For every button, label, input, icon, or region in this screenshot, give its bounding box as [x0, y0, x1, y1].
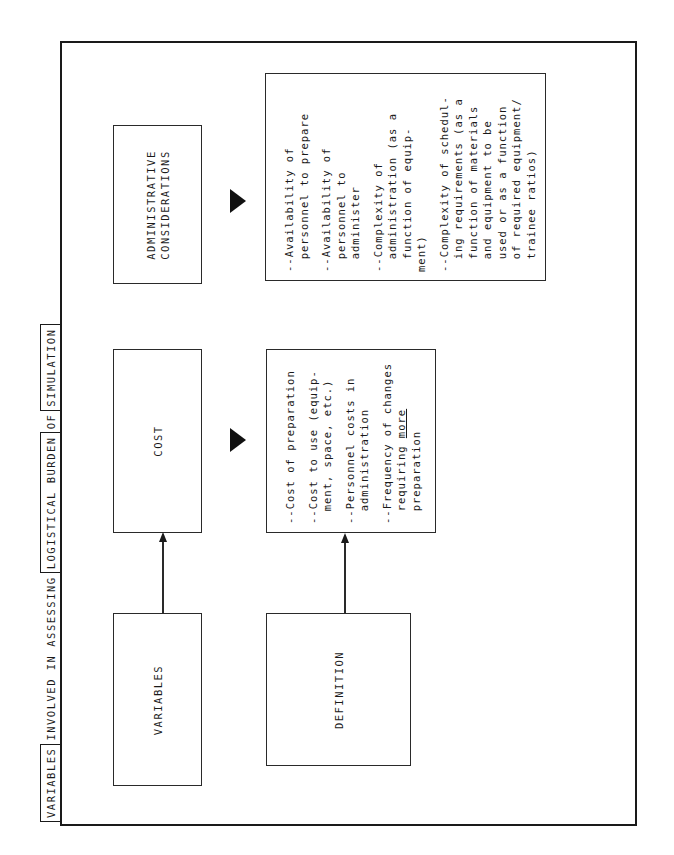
list-item-line: --Complexity of [371, 96, 386, 272]
list-item-line: --Availability of [319, 96, 334, 272]
list-item-line: administration (as a [385, 96, 400, 272]
title-segment-variables: VARIABLES [40, 744, 60, 822]
list-item-line: --Personnel costs in [343, 363, 358, 524]
administrative-considerations-label: ADMINISTRATIVE CONSIDERATIONS [144, 150, 172, 260]
list-item: --Frequency of changes requiring more pr… [380, 363, 424, 524]
list-item: --Complexity of administration (as a fun… [371, 96, 429, 272]
definition-box: DEFINITION [266, 613, 411, 766]
cost-label: COST [151, 425, 165, 456]
list-item-line: ing requirements (as a [451, 96, 466, 272]
list-item-line: trainee ratios) [524, 96, 539, 272]
list-item: --Availability of personnel to prepare [282, 96, 311, 272]
emphasized-word: more [395, 409, 407, 438]
definition-label: DEFINITION [332, 650, 346, 728]
cost-box: COST [113, 349, 202, 533]
title-segment-logistical-burden: LOGISTICAL BURDEN [40, 432, 60, 573]
diagram-title: VARIABLESINVOLVED IN ASSESSINGLOGISTICAL… [42, 324, 60, 822]
list-item-line: --Cost to use (equip- [306, 363, 321, 524]
list-item-line: --Complexity of schedul- [437, 96, 452, 272]
triangle-right-icon [230, 428, 246, 452]
list-item: --Availability of personnel to administe… [319, 96, 363, 272]
list-item-line: --Cost of preparation [283, 363, 298, 524]
list-item-line: requiring more [394, 363, 409, 524]
list-item-line: preparation [409, 363, 424, 524]
list-item-line: ment) [414, 96, 429, 272]
list-item-line: and equipment to be [480, 96, 495, 272]
cost-definition-list-box: --Cost of preparation --Cost to use (equ… [266, 349, 436, 533]
list-item: --Complexity of schedul- ing requirement… [437, 96, 539, 272]
list-item-line: administer [348, 96, 363, 272]
administrative-definition-list-box: --Availability of personnel to prepare -… [265, 73, 546, 281]
list-item-line: of required equipment/ [509, 96, 524, 272]
arrowhead-up-icon [159, 532, 167, 542]
title-segment-of: OF [42, 411, 60, 433]
list-item-line: used or as a function [495, 96, 510, 272]
list-item-line: --Frequency of changes [380, 363, 395, 524]
connector-variables-to-cost [162, 540, 164, 613]
list-item-line: function of equip- [400, 96, 415, 272]
admin-heading-line1: ADMINISTRATIVE [144, 150, 158, 260]
admin-heading-line2: CONSIDERATIONS [158, 150, 172, 260]
list-item-line: ment, space, etc.) [320, 363, 335, 524]
administrative-definition-list: --Availability of personnel to prepare -… [282, 96, 546, 272]
list-item: --Personnel costs in administration [343, 363, 372, 524]
cost-definition-list: --Cost of preparation --Cost to use (equ… [283, 363, 431, 524]
list-item-line: --Availability of [282, 96, 297, 272]
list-item-line: personnel to prepare [297, 96, 312, 272]
list-item-line: administration [357, 363, 372, 524]
title-segment-simulation: SIMULATION [40, 324, 60, 410]
list-item-line: function of materials [466, 96, 481, 272]
list-item: --Cost to use (equip- ment, space, etc.) [306, 363, 335, 524]
title-segment-involved: INVOLVED IN ASSESSING [42, 573, 60, 743]
list-item-line: personnel to [334, 96, 349, 272]
arrowhead-up-icon [341, 533, 349, 543]
variables-label: VARIABLES [151, 664, 165, 734]
triangle-right-icon [230, 189, 246, 213]
variables-box: VARIABLES [113, 613, 202, 786]
administrative-considerations-box: ADMINISTRATIVE CONSIDERATIONS [113, 125, 202, 284]
list-item: --Cost of preparation [283, 363, 298, 524]
connector-definition-to-cost-list [344, 541, 346, 613]
